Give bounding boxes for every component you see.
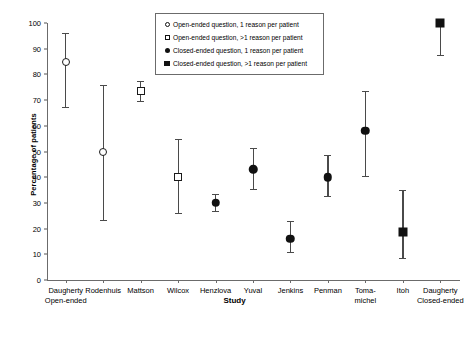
data-marker-square-filled[interactable] — [436, 19, 445, 28]
error-bar-cap-lower — [100, 220, 107, 221]
error-bar-cap-upper — [324, 155, 331, 156]
error-bar-cap-lower — [175, 213, 182, 214]
data-marker-circle-filled[interactable] — [249, 165, 258, 174]
data-marker-circle-filled[interactable] — [361, 127, 370, 136]
x-tick-mark — [365, 280, 366, 283]
y-tick-label: 70 — [0, 96, 44, 105]
x-tick-mark — [66, 280, 67, 283]
x-tick-mark — [216, 280, 217, 283]
data-marker-circle-filled[interactable] — [211, 199, 220, 208]
x-axis-title: Study — [0, 296, 469, 305]
x-tick-mark — [403, 280, 404, 283]
scatter-chart: Percentage of patients 01020304050607080… — [0, 0, 469, 337]
x-tick-label: Henzlova — [200, 286, 231, 296]
y-tick-label: 20 — [0, 224, 44, 233]
data-marker-square-filled[interactable] — [398, 228, 407, 237]
data-marker-square-open[interactable] — [174, 173, 182, 181]
x-tick-mark — [440, 280, 441, 283]
error-bar-cap-lower — [287, 252, 294, 253]
legend-item[interactable]: Closed-ended question, >1 reason per pat… — [161, 57, 318, 70]
legend-item-label: Closed-ended question, 1 reason per pati… — [173, 47, 303, 54]
error-bar-cap-upper — [399, 190, 406, 191]
error-bar-cap-lower — [324, 196, 331, 197]
x-tick-label: Mattson — [127, 286, 154, 296]
legend-item[interactable]: Closed-ended question, 1 reason per pati… — [161, 44, 318, 57]
x-tick-label: Penman — [314, 286, 342, 296]
error-bar — [402, 190, 403, 258]
data-marker-square-open[interactable] — [137, 87, 145, 95]
error-bar — [440, 23, 441, 55]
y-tick-label: 40 — [0, 173, 44, 182]
error-bar-cap-lower — [399, 258, 406, 259]
legend-swatch-square-filled-icon — [161, 61, 173, 67]
legend-item-label: Open-ended question, 1 reason per patien… — [173, 21, 299, 28]
y-tick-label: 100 — [0, 19, 44, 28]
legend-item[interactable]: Open-ended question, 1 reason per patien… — [161, 18, 318, 31]
error-bar — [65, 33, 66, 106]
y-tick-label: 80 — [0, 70, 44, 79]
error-bar-cap-lower — [437, 55, 444, 56]
error-bar-cap-lower — [250, 189, 257, 190]
legend-item-label: Closed-ended question, >1 reason per pat… — [173, 60, 307, 67]
error-bar-cap-lower — [137, 101, 144, 102]
error-bar-cap-upper — [362, 91, 369, 92]
x-tick-label: Wilcox — [167, 286, 189, 296]
x-tick-label: Rodenhuis — [85, 286, 121, 296]
error-bar-cap-upper — [212, 194, 219, 195]
chart-legend: Open-ended question, 1 reason per patien… — [155, 13, 324, 75]
error-bar-cap-lower — [212, 211, 219, 212]
error-bar-cap-upper — [287, 221, 294, 222]
x-tick-mark — [253, 280, 254, 283]
x-tick-mark — [328, 280, 329, 283]
x-tick-label: Yuval — [244, 286, 262, 296]
y-tick-label: 10 — [0, 250, 44, 259]
y-tick-label: 90 — [0, 44, 44, 53]
y-tick-label: 60 — [0, 121, 44, 130]
data-marker-circle-open[interactable] — [62, 58, 70, 66]
y-axis-ticks: 0102030405060708090100 — [0, 0, 44, 337]
x-tick-mark — [290, 280, 291, 283]
error-bar-cap-upper — [175, 139, 182, 140]
legend-swatch-square-open-icon — [161, 35, 173, 40]
error-bar-cap-lower — [362, 176, 369, 177]
error-bar-cap-upper — [62, 33, 69, 34]
data-marker-circle-filled[interactable] — [324, 173, 333, 182]
x-tick-mark — [103, 280, 104, 283]
legend-item-label: Open-ended question, >1 reason per patie… — [173, 34, 303, 41]
y-tick-label: 30 — [0, 198, 44, 207]
legend-swatch-circle-open-icon — [161, 22, 173, 27]
x-tick-label: Itoh — [397, 286, 410, 296]
data-marker-circle-open[interactable] — [99, 148, 107, 156]
legend-swatch-circle-filled-icon — [161, 48, 173, 53]
legend-item[interactable]: Open-ended question, >1 reason per patie… — [161, 31, 318, 44]
y-tick-label: 0 — [0, 276, 44, 285]
error-bar-cap-upper — [250, 148, 257, 149]
x-tick-label: Jenkins — [278, 286, 303, 296]
y-tick-label: 50 — [0, 147, 44, 156]
error-bar-cap-upper — [137, 81, 144, 82]
data-marker-circle-filled[interactable] — [286, 235, 295, 244]
x-tick-mark — [141, 280, 142, 283]
error-bar-cap-upper — [100, 85, 107, 86]
x-tick-mark — [178, 280, 179, 283]
error-bar-cap-lower — [62, 107, 69, 108]
